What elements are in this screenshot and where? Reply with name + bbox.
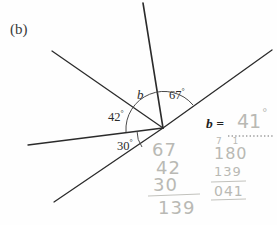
working-minuend: 180: [214, 146, 248, 162]
degree-symbol: °: [121, 109, 124, 118]
working-subtrahend: 139: [214, 165, 242, 178]
ray-up-vertical: [143, 3, 163, 128]
answer-degree-symbol: °: [262, 107, 268, 118]
working-difference: 041: [214, 184, 244, 198]
working-sum: 139: [158, 199, 195, 217]
degree-symbol: °: [182, 87, 185, 96]
degree-symbol: °: [130, 138, 133, 147]
angle-67-value: 67: [169, 88, 182, 102]
worksheet-page: (b) 42° b 67° 30° b = 41 ° 67 42 30 139 …: [0, 0, 277, 225]
answer-value[interactable]: 41: [237, 112, 261, 131]
answer-prompt: b =: [206, 117, 224, 131]
angle-42-value: 42: [108, 110, 121, 124]
angle-label-30: 30°: [117, 139, 133, 153]
angle-30-value: 30: [117, 139, 130, 153]
angle-label-67: 67°: [169, 88, 185, 102]
angle-label-42: 42°: [108, 110, 124, 124]
part-label: (b): [10, 22, 28, 37]
angle-label-b: b: [137, 88, 144, 101]
working-addend-3: 30: [153, 176, 178, 194]
